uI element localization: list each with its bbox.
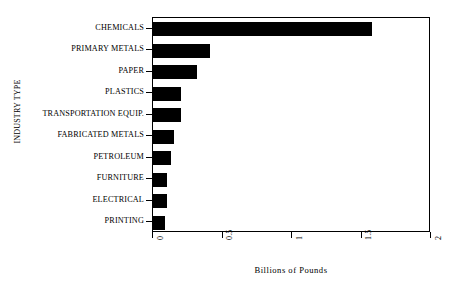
y-axis-tick-label: PETROLEUM [0,152,144,161]
bar [153,151,171,165]
x-axis-tick-mark [430,232,431,238]
y-axis-tick-label: PRIMARY METALS [0,44,144,53]
bar [153,173,167,187]
x-axis-tick-label: 1 [295,210,304,240]
x-axis-tick-label: 0 [156,210,165,240]
bar [153,44,210,58]
x-axis-tick-mark [361,232,362,238]
bar-row [153,18,429,40]
bar-row [153,147,429,169]
bar-row [153,104,429,126]
y-axis-tick-label: PAPER [0,66,144,75]
x-axis-tick-mark [291,232,292,238]
bar [153,65,197,79]
bar [153,87,181,101]
bar [153,108,181,122]
bar-row [153,40,429,62]
bar-row [153,190,429,212]
x-axis-tick-label: 1.5 [364,210,373,240]
bar-row [153,61,429,83]
plot-area [152,17,430,232]
y-axis-tick-label: PLASTICS [0,87,144,96]
y-axis-tick-label: CHEMICALS [0,23,144,32]
bar-chart: INDUSTRY TYPE CHEMICALSPRIMARY METALSPAP… [0,0,449,290]
x-axis-tick-label: 2 [434,210,443,240]
y-axis-tick-label: FURNITURE [0,173,144,182]
bar-row [153,212,429,234]
y-axis-tick-label: ELECTRICAL [0,195,144,204]
bar [153,130,174,144]
bar-row [153,126,429,148]
x-axis-tick-mark [152,232,153,238]
bar-row [153,83,429,105]
bar-row [153,169,429,191]
y-axis-label-group: CHEMICALSPRIMARY METALSPAPERPLASTICSTRAN… [0,0,144,290]
x-axis-tick-mark [222,232,223,238]
x-axis-tick-label: 0.5 [225,210,234,240]
y-axis-tick-label: FABRICATED METALS [0,130,144,139]
bar [153,22,372,36]
bar [153,194,167,208]
y-axis-tick-label: TRANSPORTATION EQUIP. [0,109,144,118]
y-axis-tick-label: PRINTING [0,216,144,225]
x-axis-title: Billions of Pounds [152,265,430,275]
